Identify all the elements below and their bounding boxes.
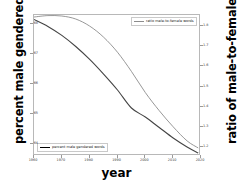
y-tick-label-left: 67: [34, 51, 38, 55]
y-tick-label-right: 1.5: [203, 84, 208, 88]
legend-ratio: ratio male-to-female words: [131, 17, 197, 26]
y-tick-mark-right: [200, 126, 203, 127]
x-tick-mark: [33, 155, 34, 158]
y-tick-mark-left: [30, 113, 33, 114]
x-tick-mark: [89, 155, 90, 158]
x-tick-mark: [172, 155, 173, 158]
legend-swatch-ratio-icon: [134, 21, 144, 22]
y-tick-label-left: 68: [34, 21, 38, 25]
legend-label-ratio: ratio male-to-female words: [146, 20, 194, 24]
x-tick-mark: [61, 155, 62, 158]
x-tick-label: 1990: [112, 158, 121, 162]
x-tick-label: 2020: [196, 158, 205, 162]
y-tick-label-left: 65: [34, 111, 38, 115]
y-tick-mark-right: [200, 146, 203, 147]
x-tick-label: 1970: [57, 158, 66, 162]
x-tick-label: 2010: [168, 158, 177, 162]
y-tick-label-right: 1.4: [203, 104, 208, 108]
y-tick-mark-left: [30, 53, 33, 54]
plot-svg: [34, 15, 201, 156]
y-axis-title-right: ratio of male-to-female words: [225, 0, 239, 144]
y-tick-mark-left: [30, 143, 33, 144]
x-tick-label: 1960: [29, 158, 38, 162]
y-tick-mark-right: [200, 25, 203, 26]
y-tick-label-left: 66: [34, 81, 38, 85]
x-tick-mark: [200, 155, 201, 158]
legend-swatch-percent-icon: [40, 147, 50, 148]
y-tick-label-right: 1.3: [203, 124, 208, 128]
chart-figure: percent male gendered words ratio of mal…: [0, 0, 240, 184]
y-tick-mark-left: [30, 23, 33, 24]
legend-percent: percent male gendered words: [37, 143, 108, 152]
x-tick-mark: [144, 155, 145, 158]
y-tick-label-right: 1.8: [203, 23, 208, 27]
y-tick-label-left: 64: [34, 141, 38, 145]
y-axis-title-left: percent male gendered words: [12, 0, 26, 144]
x-axis-title: year: [33, 166, 200, 180]
series-line-percent-male-gendered: [34, 20, 198, 154]
x-tick-label: 2000: [140, 158, 149, 162]
y-tick-mark-right: [200, 86, 203, 87]
y-tick-mark-right: [200, 45, 203, 46]
y-tick-label-right: 1.7: [203, 43, 208, 47]
plot-area: [33, 14, 200, 155]
series-line-ratio-male-to-female: [34, 16, 198, 148]
x-tick-mark: [117, 155, 118, 158]
y-tick-label-right: 1.6: [203, 63, 208, 67]
y-tick-mark-right: [200, 65, 203, 66]
legend-label-percent: percent male gendered words: [52, 146, 105, 150]
y-tick-mark-left: [30, 83, 33, 84]
y-tick-label-right: 1.2: [203, 144, 208, 148]
x-tick-label: 1980: [84, 158, 93, 162]
y-tick-mark-right: [200, 106, 203, 107]
